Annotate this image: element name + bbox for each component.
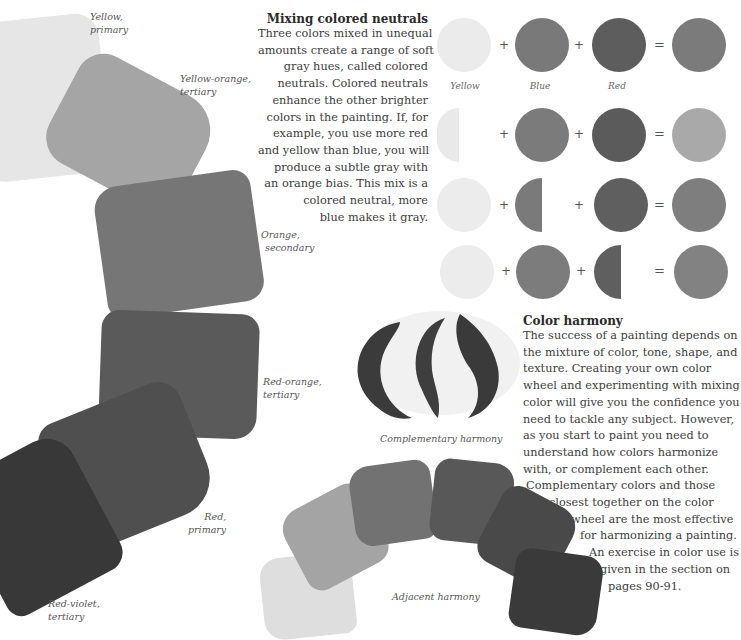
column-label-blue: Blue <box>510 81 570 91</box>
label-line: Orange, <box>261 228 314 241</box>
blue-circle <box>515 18 569 72</box>
swatch-orange <box>92 168 267 321</box>
text-line: and yellow than blue, you will <box>258 143 428 160</box>
yellow-circle <box>440 245 494 299</box>
label-line: Yellow-orange, <box>180 72 251 85</box>
text-line: blue makes it gray. <box>258 210 428 227</box>
text-line: understand how colors harmonize <box>523 445 741 462</box>
complementary-caption: Complementary harmony <box>380 432 502 445</box>
text-line: Three colors mixed in unequal <box>258 26 428 43</box>
yellow-circle <box>437 178 491 232</box>
blue-half-circle <box>515 178 542 232</box>
plus-sign: + <box>574 127 584 141</box>
label-line: tertiary <box>180 85 251 98</box>
equals-sign: = <box>654 37 665 52</box>
label-line: primary <box>90 23 128 36</box>
plus-sign: + <box>574 198 584 212</box>
plus-sign: + <box>576 264 586 278</box>
text-line: enhance the other brighter <box>258 93 428 110</box>
text-line: texture. Creating your own color <box>523 361 741 378</box>
text-line: as you start to paint you need to <box>523 428 741 445</box>
red-circle <box>592 18 646 72</box>
label-red-orange: Red-orange, tertiary <box>263 375 322 401</box>
result-circle <box>672 178 726 232</box>
label-yellow-orange: Yellow-orange, tertiary <box>180 72 251 98</box>
plus-sign: + <box>499 127 509 141</box>
blue-circle <box>515 108 569 162</box>
harmony-heading: Color harmony <box>523 314 741 328</box>
label-orange: Orange, secondary <box>261 228 314 254</box>
label-red: Red, primary <box>188 510 226 536</box>
text-line: neutrals. Colored neutrals <box>258 76 428 93</box>
adjacent-caption: Adjacent harmony <box>392 590 480 603</box>
text-line: wheel and experimenting with mixing <box>523 378 741 395</box>
text-line: with, or complement each other. <box>523 462 741 479</box>
equals-sign: = <box>654 197 665 212</box>
column-label-yellow: Yellow <box>435 81 495 91</box>
label-red-violet: Red-violet, tertiary <box>48 597 100 623</box>
label-line: secondary <box>261 241 314 254</box>
result-circle <box>672 18 726 72</box>
yellow-half-circle <box>437 108 459 162</box>
label-yellow: Yellow, primary <box>90 10 128 36</box>
complementary-strokes-illustration <box>340 308 520 428</box>
label-line: Red-orange, <box>263 375 322 388</box>
result-circle <box>672 108 726 162</box>
text-line: colors in the painting. If, for <box>258 110 428 127</box>
column-label-red: Red <box>587 81 647 91</box>
label-line: tertiary <box>263 388 322 401</box>
plus-sign: + <box>499 198 509 212</box>
text-line: produce a subtle gray with <box>258 160 428 177</box>
red-half-circle <box>594 245 621 299</box>
label-line: tertiary <box>48 610 100 623</box>
mixing-body: Three colors mixed in unequal amounts cr… <box>258 26 428 226</box>
label-line: Red-violet, <box>48 597 100 610</box>
equals-sign: = <box>654 263 665 278</box>
plus-sign: + <box>501 264 511 278</box>
mixing-heading: Mixing colored neutrals <box>258 12 428 26</box>
label-line: primary <box>188 523 226 536</box>
result-circle <box>674 245 728 299</box>
text-line: an orange bias. This mix is a <box>258 176 428 193</box>
text-line: amounts create a range of soft <box>258 43 428 60</box>
text-line: colored neutral, more <box>258 193 428 210</box>
plus-sign: + <box>574 38 584 52</box>
text-line: example, you use more red <box>258 126 428 143</box>
label-line: Yellow, <box>90 10 128 23</box>
red-circle <box>594 178 648 232</box>
text-line: Complementary colors and those <box>523 478 741 495</box>
plus-sign: + <box>499 38 509 52</box>
equals-sign: = <box>654 126 665 141</box>
label-line: Red, <box>188 510 226 523</box>
mixing-section-text: Mixing colored neutrals Three colors mix… <box>258 12 428 226</box>
text-line: the mixture of color, tone, shape, and <box>523 345 741 362</box>
adjacent-swatch-6 <box>507 546 605 637</box>
text-line: gray hues, called colored <box>258 59 428 76</box>
adjacent-swatch-3 <box>347 458 439 549</box>
yellow-circle <box>437 18 491 72</box>
red-circle <box>592 108 646 162</box>
text-line: need to tackle any subject. However, <box>523 412 741 429</box>
blue-circle <box>516 245 570 299</box>
text-line: color will give you the confidence you <box>523 395 741 412</box>
text-line: The success of a painting depends on <box>523 328 741 345</box>
